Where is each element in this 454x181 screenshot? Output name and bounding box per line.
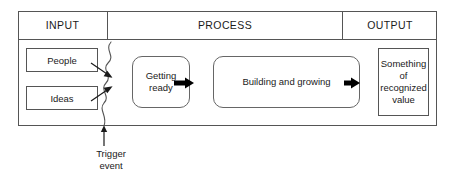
trigger-event-label-line2: event (78, 160, 144, 172)
diagram-canvas: INPUT PROCESS OUTPUT People Ideas Gettin… (0, 0, 454, 181)
column-header-input: INPUT (18, 11, 108, 39)
column-header-band: INPUT PROCESS OUTPUT (18, 11, 437, 40)
input-box-ideas: Ideas (26, 86, 98, 110)
trigger-event-label: Trigger event (78, 148, 144, 172)
input-box-people: People (26, 48, 98, 72)
column-header-process: PROCESS (108, 11, 343, 39)
output-box-recognized-value: Something of recognized value (378, 48, 429, 116)
trigger-event-label-line1: Trigger (78, 148, 144, 160)
column-header-output: OUTPUT (343, 11, 437, 39)
process-box-building-and-growing: Building and growing (213, 56, 360, 108)
arrow-trigger-event (101, 126, 107, 147)
process-box-getting-ready: Getting ready (132, 56, 190, 108)
diagram-body: People Ideas Getting ready Building and … (18, 40, 437, 126)
